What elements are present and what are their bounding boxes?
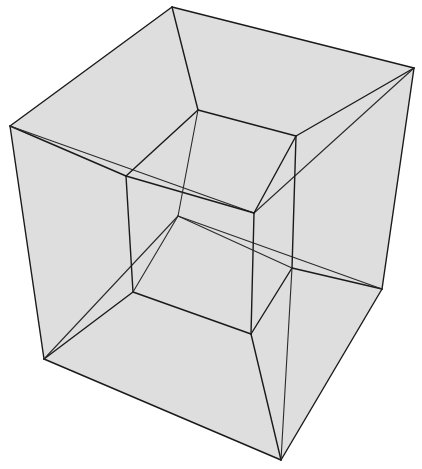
faces — [10, 7, 414, 460]
tesseract-figure: Tesseract (hypercube) perspective projec… — [0, 0, 422, 469]
tesseract-drawing — [0, 0, 422, 469]
